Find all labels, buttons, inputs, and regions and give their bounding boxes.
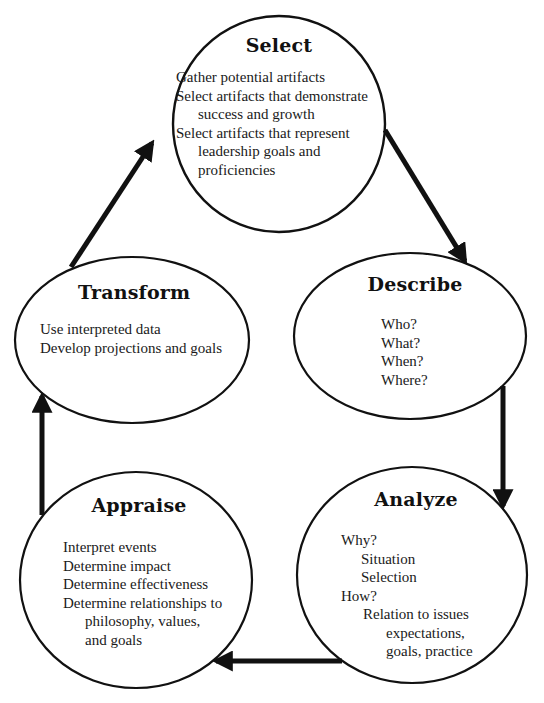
analyze-line: Selection bbox=[341, 568, 473, 587]
analyze-line: How? bbox=[341, 587, 473, 606]
analyze-line: expectations, bbox=[341, 624, 473, 643]
describe-line: When? bbox=[381, 352, 428, 371]
appraise-body: Interpret events Determine impact Determ… bbox=[63, 538, 222, 649]
appraise-line: Interpret events bbox=[63, 538, 222, 557]
appraise-title: Appraise bbox=[89, 494, 189, 516]
transform-body: Use interpreted data Develop projections… bbox=[40, 320, 222, 357]
describe-line: What? bbox=[381, 334, 428, 353]
transform-line: Develop projections and goals bbox=[40, 339, 222, 358]
select-line: leadership goals and bbox=[176, 142, 368, 161]
describe-line: Who? bbox=[381, 315, 428, 334]
appraise-line: philosophy, values, bbox=[63, 612, 222, 631]
select-line: proficiencies bbox=[176, 161, 368, 180]
analyze-line: goals, practice bbox=[341, 642, 473, 661]
appraise-line: Determine effectiveness bbox=[63, 575, 222, 594]
describe-title: Describe bbox=[360, 273, 470, 295]
appraise-line: and goals bbox=[63, 631, 222, 650]
analyze-title: Analyze bbox=[366, 488, 466, 510]
analyze-body: Why? Situation Selection How? Relation t… bbox=[341, 531, 473, 661]
cycle-diagram: Select Gather potential artifacts Select… bbox=[0, 0, 544, 703]
arrow-select-to-describe bbox=[385, 130, 465, 261]
select-line: Gather potential artifacts bbox=[176, 68, 368, 87]
analyze-line: Situation bbox=[341, 550, 473, 569]
transform-line: Use interpreted data bbox=[40, 320, 222, 339]
describe-line: Where? bbox=[381, 371, 428, 390]
transform-title: Transform bbox=[78, 281, 188, 303]
select-line: Select artifacts that represent bbox=[176, 124, 368, 143]
appraise-line: Determine relationships to bbox=[63, 594, 222, 613]
analyze-line: Why? bbox=[341, 531, 473, 550]
select-body: Gather potential artifacts Select artifa… bbox=[176, 68, 368, 179]
describe-body: Who? What? When? Where? bbox=[381, 315, 428, 389]
arrow-transform-to-select bbox=[71, 143, 152, 267]
analyze-line: Relation to issues bbox=[341, 605, 473, 624]
select-line: Select artifacts that demonstrate bbox=[176, 87, 368, 106]
select-title: Select bbox=[229, 34, 329, 56]
appraise-line: Determine impact bbox=[63, 557, 222, 576]
select-line: success and growth bbox=[176, 105, 368, 124]
